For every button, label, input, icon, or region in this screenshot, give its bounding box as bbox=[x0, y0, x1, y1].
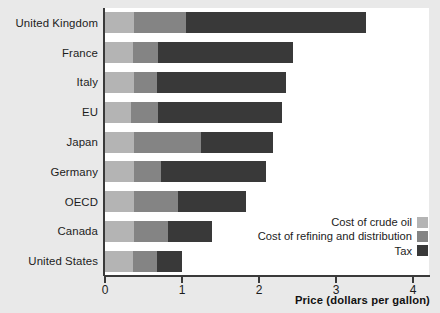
bar-segment bbox=[105, 72, 134, 93]
bar-segment bbox=[178, 191, 246, 212]
bar-segment bbox=[134, 132, 201, 153]
category-label: Canada bbox=[0, 225, 98, 237]
chart-legend: Cost of crude oilCost of refining and di… bbox=[258, 216, 428, 257]
bar-segment bbox=[134, 161, 161, 182]
bar-segment bbox=[105, 221, 134, 242]
legend-color-swatch bbox=[417, 245, 428, 256]
bar-segment bbox=[157, 251, 182, 272]
category-label: Japan bbox=[0, 136, 98, 148]
x-tick-label: 0 bbox=[90, 283, 120, 297]
bar-row: Italy bbox=[0, 68, 440, 98]
legend-item: Cost of crude oil bbox=[331, 216, 428, 228]
stacked-bar bbox=[105, 72, 286, 93]
stacked-bar bbox=[105, 191, 246, 212]
bar-segment bbox=[105, 12, 134, 33]
bar-row: Japan bbox=[0, 127, 440, 157]
bar-segment bbox=[105, 251, 133, 272]
bar-segment bbox=[133, 42, 158, 63]
bar-segment bbox=[105, 161, 134, 182]
bar-row: EU bbox=[0, 97, 440, 127]
bar-segment bbox=[105, 191, 134, 212]
legend-color-swatch bbox=[417, 217, 428, 228]
bar-segment bbox=[134, 72, 156, 93]
category-label: Germany bbox=[0, 166, 98, 178]
stacked-bar bbox=[105, 12, 366, 33]
bar-row: OECD bbox=[0, 187, 440, 217]
legend-color-swatch bbox=[417, 231, 428, 242]
category-label: Italy bbox=[0, 76, 98, 88]
legend-item: Cost of refining and distribution bbox=[258, 230, 428, 242]
bar-segment bbox=[186, 12, 366, 33]
bar-row: United Kingdom bbox=[0, 8, 440, 38]
y-axis-line bbox=[103, 8, 105, 276]
bar-segment bbox=[134, 12, 186, 33]
stacked-bar bbox=[105, 42, 293, 63]
x-axis-title: Price (dollars per gallon) bbox=[295, 294, 430, 306]
bar-segment bbox=[134, 191, 178, 212]
stacked-bar bbox=[105, 221, 212, 242]
bar-segment bbox=[168, 221, 212, 242]
bar-row: France bbox=[0, 38, 440, 68]
bar-segment bbox=[201, 132, 273, 153]
bar-segment bbox=[157, 72, 286, 93]
bar-segment bbox=[105, 102, 131, 123]
bar-segment bbox=[158, 42, 293, 63]
category-label: OECD bbox=[0, 196, 98, 208]
category-label: United Kingdom bbox=[0, 17, 98, 29]
category-label: France bbox=[0, 47, 98, 59]
x-tick-label: 1 bbox=[167, 283, 197, 297]
legend-item: Tax bbox=[395, 245, 428, 257]
legend-item-label: Cost of refining and distribution bbox=[258, 230, 412, 242]
bar-segment bbox=[131, 102, 158, 123]
bar-segment bbox=[133, 251, 157, 272]
bar-segment bbox=[158, 102, 282, 123]
x-tick-label: 2 bbox=[244, 283, 274, 297]
stacked-bar bbox=[105, 132, 273, 153]
stacked-bar bbox=[105, 161, 266, 182]
legend-item-label: Cost of crude oil bbox=[331, 216, 412, 228]
bar-segment bbox=[105, 132, 134, 153]
bar-segment bbox=[105, 42, 133, 63]
legend-item-label: Tax bbox=[395, 245, 412, 257]
stacked-bar bbox=[105, 102, 282, 123]
bar-row: Germany bbox=[0, 157, 440, 187]
category-label: EU bbox=[0, 106, 98, 118]
stacked-bar-chart-figure: United KingdomFranceItalyEUJapanGermanyO… bbox=[0, 0, 440, 313]
bar-segment bbox=[161, 161, 266, 182]
category-label: United States bbox=[0, 255, 98, 267]
stacked-bar bbox=[105, 251, 182, 272]
x-axis-line bbox=[104, 275, 430, 277]
bar-segment bbox=[134, 221, 168, 242]
